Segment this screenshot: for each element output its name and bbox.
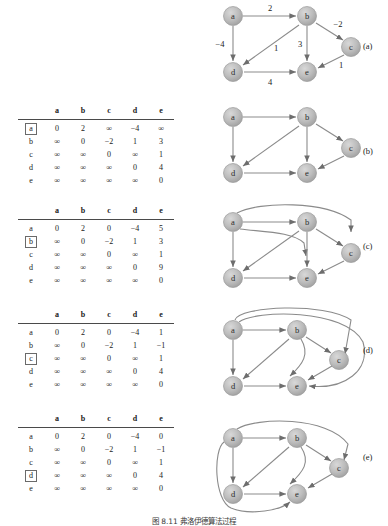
matrix-c-col-b: b	[70, 204, 96, 220]
matrix-d-col-a: a	[44, 308, 70, 324]
edge-c-e	[318, 261, 344, 274]
graph-c-unweighted: a b c d e	[205, 198, 380, 300]
graph-a-nodes	[224, 7, 361, 82]
matrix-d-cell-e-e: 0	[148, 378, 174, 391]
matrix-e-col-b: b	[70, 412, 96, 428]
matrix-d-cell-b-a: ∞	[44, 339, 70, 352]
matrix-d-cell-c-b: ∞	[70, 352, 96, 365]
matrix-b-cell-d-b: ∞	[70, 161, 96, 174]
matrix-e-cell-b-a: ∞	[44, 443, 70, 456]
matrix-e-col-c: c	[96, 412, 122, 428]
matrix-d-col-d: d	[122, 308, 148, 324]
matrix-c-cell-a-c: 0	[96, 220, 122, 236]
matrix-e-cell-e-a: ∞	[44, 482, 70, 495]
node-label-c: c	[349, 143, 353, 153]
matrix-e-row-label-c: c	[18, 456, 44, 469]
matrix-b-cell-b-a: ∞	[44, 135, 70, 148]
table-row: a 0 2 0 −4 1	[18, 324, 174, 340]
edge-b-e	[290, 339, 305, 376]
graph-e-svg: a b c d e	[205, 408, 380, 520]
matrix-d-row-label-b: b	[18, 339, 44, 352]
graph-b-unweighted: a b c d e	[205, 103, 380, 195]
matrix-d-cell-d-c: ∞	[96, 365, 122, 378]
node-label-a: a	[231, 433, 235, 443]
node-label-b: b	[305, 217, 309, 227]
table-row: a 0 2 0 −4 5	[18, 220, 174, 236]
edge-c-e	[308, 474, 332, 488]
matrix-c-table: a b c d e a 0 2 0 −4 5 b ∞ 0 −2 1 3	[18, 204, 174, 287]
matrix-b-header-row: a b c d e	[18, 104, 174, 120]
table-row: e ∞ ∞ ∞ ∞ 0	[18, 274, 174, 287]
matrix-e-cell-c-d: ∞	[122, 456, 148, 469]
highlighted-row-label: a	[25, 123, 37, 135]
matrix-e-col-d: d	[122, 412, 148, 428]
matrix-d-corner	[18, 308, 44, 324]
graph-d-node-labels: a b c d e	[231, 325, 341, 391]
matrix-d-col-b: b	[70, 308, 96, 324]
matrix-b-cell-d-e: 4	[148, 161, 174, 174]
edge-weight-b-d: 1	[274, 43, 278, 53]
matrix-d-cell-d-b: ∞	[70, 365, 96, 378]
matrix-c-cell-a-b: 2	[70, 220, 96, 236]
matrix-d-cell-c-e: 1	[148, 352, 174, 365]
edge-b-d	[243, 447, 289, 487]
matrix-e-cell-c-c: 0	[96, 456, 122, 469]
matrix-d-cell-e-c: ∞	[96, 378, 122, 391]
graph-b-node-labels: a b c d e	[231, 112, 353, 178]
matrix-e-row-label-e: e	[18, 482, 44, 495]
table-row: d ∞ ∞ ∞ 0 4	[18, 469, 174, 482]
node-label-b: b	[305, 112, 309, 122]
edge-weight-c-e: 1	[339, 60, 343, 70]
graph-e-unweighted: a b c d e	[205, 408, 380, 520]
edge-weight-a-b: 2	[268, 3, 272, 13]
matrix-b-cell-a-a: 0	[44, 120, 70, 136]
matrix-e-cell-c-e: 1	[148, 456, 174, 469]
graph-c-nodes	[224, 213, 361, 288]
node-label-c: c	[337, 463, 341, 473]
matrix-b-cell-b-d: 1	[122, 135, 148, 148]
node-label-a: a	[231, 11, 235, 21]
matrix-b-row-label-d: d	[18, 161, 44, 174]
table-row: c ∞ ∞ 0 ∞ 1	[18, 456, 174, 469]
edge-b-c	[316, 229, 343, 246]
matrix-e-cell-d-d: 0	[122, 469, 148, 482]
matrix-c-cell-e-b: ∞	[70, 274, 96, 287]
graph-d-unweighted: a b c d e	[205, 298, 380, 404]
matrix-b-cell-c-c: 0	[96, 148, 122, 161]
graph-b-svg: a b c d e	[205, 103, 380, 195]
matrix-c-col-d: d	[122, 204, 148, 220]
matrix-e-header-row: a b c d e	[18, 412, 174, 428]
matrix-d: a b c d e a 0 2 0 −4 1 b ∞ 0 −2 1 −1	[18, 308, 174, 391]
matrix-b-cell-d-a: ∞	[44, 161, 70, 174]
matrix-c-cell-d-a: ∞	[44, 261, 70, 274]
graph-a-edges	[233, 16, 344, 72]
table-row: a 0 2 0 −4 0	[18, 428, 174, 444]
matrix-d-cell-c-c: 0	[96, 352, 122, 365]
matrix-c-header-row: a b c d e	[18, 204, 174, 220]
edge-b-d	[243, 339, 289, 379]
node-label-b: b	[295, 325, 299, 335]
matrix-b-cell-c-a: ∞	[44, 148, 70, 161]
matrix-c-cell-d-b: ∞	[70, 261, 96, 274]
graph-c-edges	[233, 205, 351, 278]
matrix-b-cell-e-e: 0	[148, 174, 174, 187]
matrix-b-cell-b-b: 0	[70, 135, 96, 148]
matrix-b-col-c: c	[96, 104, 122, 120]
matrix-b-cell-c-b: ∞	[70, 148, 96, 161]
matrix-b-col-a: a	[44, 104, 70, 120]
matrix-d-cell-a-e: 1	[148, 324, 174, 340]
matrix-b-cell-e-c: ∞	[96, 174, 122, 187]
matrix-b-row-label-b: b	[18, 135, 44, 148]
table-row: e ∞ ∞ ∞ ∞ 0	[18, 482, 174, 495]
matrix-c-row-label-e: e	[18, 274, 44, 287]
table-row: e ∞ ∞ ∞ ∞ 0	[18, 378, 174, 391]
matrix-b-cell-c-e: 1	[148, 148, 174, 161]
matrix-b-row-label-a: a	[18, 120, 44, 136]
matrix-e-cell-a-a: 0	[44, 428, 70, 444]
table-row: d ∞ ∞ ∞ 0 9	[18, 261, 174, 274]
matrix-b-cell-d-d: 0	[122, 161, 148, 174]
matrix-c-cell-e-c: ∞	[96, 274, 122, 287]
edge-b-c	[306, 445, 331, 461]
graph-b-edges	[233, 117, 344, 173]
highlighted-row-label: c	[25, 353, 37, 365]
